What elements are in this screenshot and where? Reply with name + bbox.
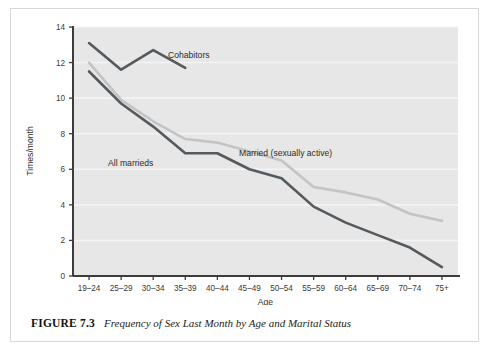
svg-text:10: 10 [56, 94, 66, 103]
svg-text:75+: 75+ [435, 284, 449, 293]
svg-text:35–39: 35–39 [174, 284, 197, 293]
svg-text:0: 0 [60, 272, 65, 281]
svg-text:65–69: 65–69 [366, 284, 389, 293]
svg-text:Cohabitors: Cohabitors [168, 50, 210, 60]
svg-text:4: 4 [60, 201, 65, 210]
svg-text:All marrieds: All marrieds [108, 158, 153, 168]
svg-text:45–49: 45–49 [238, 284, 261, 293]
svg-text:30–34: 30–34 [142, 284, 165, 293]
line-chart: 02468101214 19–2425–2930–3435–3940–4445–… [11, 9, 480, 305]
svg-text:40–44: 40–44 [206, 284, 229, 293]
svg-text:12: 12 [56, 59, 66, 68]
figure-card: 02468101214 19–2425–2930–3435–3940–4445–… [10, 8, 479, 342]
svg-text:6: 6 [60, 165, 65, 174]
chart-plot-area: 02468101214 19–2425–2930–3435–3940–4445–… [11, 9, 480, 305]
svg-text:25–29: 25–29 [110, 284, 133, 293]
svg-text:14: 14 [56, 23, 66, 32]
svg-text:8: 8 [60, 130, 65, 139]
svg-text:70–74: 70–74 [398, 284, 421, 293]
y-axis-ticks: 02468101214 [56, 23, 73, 281]
svg-text:2: 2 [60, 236, 65, 245]
svg-text:55–59: 55–59 [302, 284, 325, 293]
svg-text:60–64: 60–64 [334, 284, 357, 293]
x-axis-title: Age [258, 297, 274, 305]
y-axis-title: Times/month [25, 126, 35, 176]
svg-text:Married (sexually active): Married (sexually active) [239, 148, 332, 158]
figure-number: FIGURE 7.3 [31, 317, 95, 329]
svg-text:19–24: 19–24 [78, 284, 101, 293]
svg-text:50–54: 50–54 [270, 284, 293, 293]
x-axis-ticks: 19–2425–2930–3435–3940–4445–4950–5455–59… [78, 276, 449, 293]
figure-caption-text: Frequency of Sex Last Month by Age and M… [104, 317, 351, 329]
figure-caption: FIGURE 7.3 Frequency of Sex Last Month b… [11, 305, 480, 341]
